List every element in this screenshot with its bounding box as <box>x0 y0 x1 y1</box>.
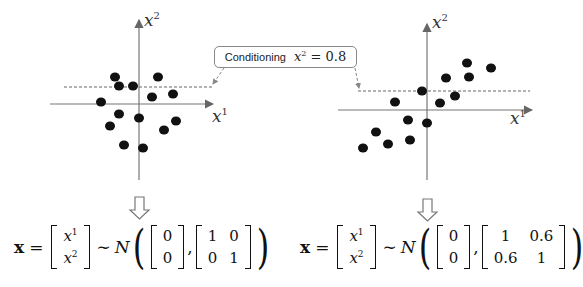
distribution-symbol: N <box>401 237 416 257</box>
covariance-matrix: 10.6 0.61 <box>482 225 566 269</box>
callout-word: Conditioning <box>225 51 286 63</box>
sim-sign: ∼ <box>383 237 397 257</box>
mean-vector: 0 0 <box>437 225 471 269</box>
mean-vector: 0 0 <box>151 225 185 269</box>
left-down-arrow-icon <box>130 197 149 219</box>
vector-x: x1 x2 <box>51 225 89 269</box>
conditioning-callout: Conditioning x2 = 0.8 <box>214 46 357 68</box>
equals-sign: = <box>29 237 43 257</box>
callout-connector-left <box>213 68 224 84</box>
comma: , <box>473 237 478 257</box>
covariance-matrix: 10 01 <box>196 225 251 269</box>
callout-connector-right <box>355 68 359 88</box>
left-x-axis-label: x1 <box>212 106 228 126</box>
left-formula: x = x1 x2 ∼ N ( 0 0 , 10 01 ) <box>14 222 272 272</box>
open-paren: ( <box>418 224 431 270</box>
distribution-symbol: N <box>115 237 130 257</box>
comma: , <box>187 237 192 257</box>
left-y-axis-label: x2 <box>144 10 160 30</box>
right-y-axis-label: x2 <box>432 12 448 32</box>
equals-sign: = <box>315 237 329 257</box>
right-formula: x = x1 x2 ∼ N ( 0 0 , 10.6 0.61 ) <box>300 222 583 272</box>
right-down-arrow-icon <box>418 199 437 221</box>
formula-lhs: x <box>300 237 310 257</box>
close-paren: ) <box>256 224 269 270</box>
callout-math: x2 = 0.8 <box>294 49 346 64</box>
right-scatter-plot <box>338 24 532 221</box>
formula-lhs: x <box>14 237 24 257</box>
vector-x: x1 x2 <box>337 225 375 269</box>
right-x-axis-label: x1 <box>510 108 526 128</box>
left-scatter-plot <box>50 20 213 219</box>
open-paren: ( <box>132 224 145 270</box>
close-paren: ) <box>571 224 583 270</box>
sim-sign: ∼ <box>97 237 111 257</box>
